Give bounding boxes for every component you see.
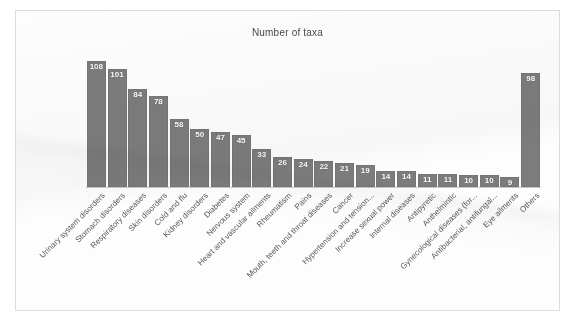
bar-value-label: 101 [108, 70, 127, 80]
bar-value-label: 14 [376, 172, 395, 182]
bar-value-label: 84 [128, 90, 147, 100]
x-axis-tick-label: Others [518, 191, 541, 214]
bar-value-label: 45 [232, 136, 251, 146]
bar [108, 69, 127, 187]
bar-value-label: 26 [273, 158, 292, 168]
chart-figure: Number of taxa 1081018478585047453326242… [15, 10, 560, 311]
bar-value-label: 11 [418, 175, 437, 185]
bar-value-label: 21 [335, 164, 354, 174]
bar-value-label: 24 [294, 160, 313, 170]
bar-value-label: 98 [521, 74, 540, 84]
bar [149, 96, 168, 187]
bar-value-label: 11 [438, 175, 457, 185]
bar-value-label: 50 [190, 130, 209, 140]
bar-value-label: 9 [500, 178, 519, 188]
bar-value-label: 78 [149, 97, 168, 107]
chart-title: Number of taxa [16, 27, 559, 38]
bar-value-label: 108 [87, 62, 106, 72]
bar-value-label: 33 [252, 150, 271, 160]
bar-value-label: 47 [211, 133, 230, 143]
bar-value-label: 14 [397, 172, 416, 182]
bar-value-label: 22 [314, 162, 333, 172]
bar-value-label: 19 [356, 166, 375, 176]
bar [128, 89, 147, 187]
bar-value-label: 10 [480, 176, 499, 186]
bar-value-label: 58 [170, 120, 189, 130]
bar-value-label: 10 [459, 176, 478, 186]
bar [87, 61, 106, 187]
bar [521, 73, 540, 187]
plot-area: 1081018478585047453326242221191414111110… [86, 61, 541, 187]
x-axis-category-labels: Urinary system disordersStomach disorder… [86, 187, 541, 317]
